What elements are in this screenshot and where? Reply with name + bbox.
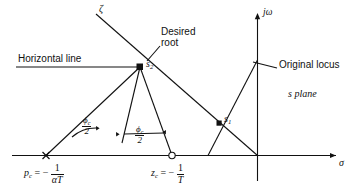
s1-point-label: s1 (224, 114, 231, 125)
angle-right-fraction: ϕc 2 (135, 125, 144, 146)
s2-subscript: 2 (150, 63, 153, 70)
angle-right-denominator: 2 (135, 136, 144, 145)
angle-label-right: ϕc 2 (135, 125, 144, 146)
original-locus-label: Original locus (279, 60, 340, 71)
zero-variable-subscript: c (155, 172, 158, 179)
desired-root-label-line2: root (161, 37, 178, 48)
s-plane-label: s plane (288, 89, 317, 100)
angle-label-left: ϕc 2 (82, 116, 91, 137)
s1-subscript: 1 (228, 118, 231, 125)
compensator-zero-marker (169, 152, 175, 158)
s-plane-text: s plane (288, 88, 317, 99)
s1-root-marker (217, 121, 222, 126)
pole-denominator: αT (51, 175, 64, 186)
pole-equals-minus: = − (35, 167, 49, 178)
angle-left-phi-subscript: c (88, 120, 91, 126)
imaginary-axis-label: jω (263, 8, 272, 18)
damping-ratio-label: ζ (99, 4, 103, 15)
horizontal-line-label: Horizontal line (18, 54, 81, 65)
zero-to-s2-line (140, 67, 172, 156)
compensator-zero-label: zc = − 1 T (151, 163, 184, 185)
desired-root-label-line1: Desired (161, 26, 195, 37)
imaginary-axis-arrowhead (255, 13, 260, 19)
angle-arc-left-tick (96, 126, 100, 131)
compensator-pole-label: pc = − 1 αT (24, 163, 64, 185)
original-locus-branch (208, 60, 258, 156)
pole-to-s2-line (46, 67, 140, 156)
real-axis-label: σ (339, 158, 344, 169)
pole-fraction: 1 αT (51, 163, 64, 185)
original-locus-leader (253, 62, 277, 68)
pole-numerator: 1 (51, 163, 64, 175)
zero-numerator: 1 (177, 163, 185, 175)
angle-left-fraction: ϕc 2 (82, 116, 91, 137)
s2-point-label: s2 (146, 59, 153, 70)
zero-equals-minus: = − (160, 167, 174, 178)
pole-variable-subscript: c (29, 172, 32, 179)
real-axis-arrowhead (330, 153, 336, 158)
zero-denominator: T (177, 175, 185, 186)
angle-left-denominator: 2 (82, 127, 91, 136)
zero-fraction: 1 T (177, 163, 185, 185)
angle-right-phi-subscript: c (141, 129, 144, 135)
desired-root-label: Desired root (161, 27, 195, 48)
s-plane-diagram: ζ Horizontal line Desired root s2 s1 Ori… (0, 0, 359, 187)
angle-tick-bisector (116, 132, 120, 137)
desired-root-marker (137, 64, 144, 71)
